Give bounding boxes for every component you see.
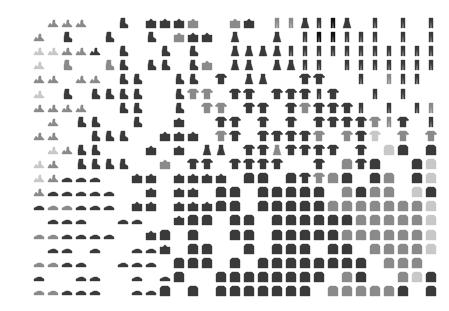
bag-icon [187, 186, 199, 198]
dress-icon [229, 59, 241, 71]
dress-icon [215, 144, 227, 156]
ankle-boot-icon [117, 59, 129, 71]
dress-icon [271, 59, 283, 71]
t-shirt-top-icon [313, 73, 325, 85]
dress-icon [299, 17, 311, 29]
ankle-boot-icon [159, 45, 171, 57]
ankle-boot-icon [159, 59, 171, 71]
sandal-icon [47, 45, 59, 57]
trouser-icon [383, 45, 395, 57]
thumbnail-grid [0, 0, 449, 311]
coat-icon [187, 257, 199, 269]
dress-icon [201, 144, 213, 156]
dress-icon [341, 17, 353, 29]
t-shirt-top-icon [313, 158, 325, 170]
t-shirt-top-icon [187, 88, 199, 100]
coat-icon [187, 229, 199, 241]
bag-icon [145, 144, 157, 156]
ankle-boot-icon [131, 73, 143, 85]
trouser-icon [299, 59, 311, 71]
coat-icon [229, 229, 241, 241]
t-shirt-top-icon [257, 144, 269, 156]
t-shirt-top-icon [313, 172, 325, 184]
trouser-icon [425, 45, 437, 57]
t-shirt-top-icon [299, 172, 311, 184]
sneaker-icon [61, 229, 73, 241]
pullover-icon [257, 186, 269, 198]
sneaker-icon [61, 172, 73, 184]
pullover-icon [341, 200, 353, 212]
shirt-icon [411, 243, 423, 255]
sandal-icon [75, 17, 87, 29]
shirt-icon [397, 200, 409, 212]
sneaker-icon [159, 271, 171, 283]
trouser-icon [341, 31, 353, 43]
sneaker-icon [103, 229, 115, 241]
coat-icon [243, 229, 255, 241]
bag-icon [159, 243, 171, 255]
coat-icon [271, 285, 283, 297]
pullover-icon [369, 229, 381, 241]
sandal-icon [61, 45, 73, 57]
sneaker-icon [103, 200, 115, 212]
coat-icon [229, 271, 241, 283]
t-shirt-top-icon [257, 158, 269, 170]
coat-icon [243, 285, 255, 297]
pullover-icon [327, 200, 339, 212]
trouser-icon [369, 88, 381, 100]
coat-icon [243, 214, 255, 226]
sneaker-icon [131, 271, 143, 283]
trouser-icon [383, 59, 395, 71]
trouser-icon [355, 102, 367, 114]
sandal-icon [33, 59, 45, 71]
t-shirt-top-icon [201, 102, 213, 114]
ankle-boot-icon [75, 158, 87, 170]
bag-icon [145, 229, 157, 241]
trouser-icon [355, 73, 367, 85]
pullover-icon [313, 229, 325, 241]
dress-icon [243, 73, 255, 85]
pullover-icon [313, 186, 325, 198]
dress-icon [243, 45, 255, 57]
dress-icon [257, 45, 269, 57]
coat-icon [271, 200, 283, 212]
shirt-icon [383, 257, 395, 269]
shirt-icon [383, 172, 395, 184]
sandal-icon [33, 102, 45, 114]
trouser-icon [425, 17, 437, 29]
coat-icon [173, 257, 185, 269]
ankle-boot-icon [75, 116, 87, 128]
sneaker-icon [145, 285, 157, 297]
bag-icon [243, 17, 255, 29]
sneaker-icon [47, 285, 59, 297]
bag-icon [173, 31, 185, 43]
bag-icon [131, 200, 143, 212]
coat-icon [201, 243, 213, 255]
coat-icon [159, 229, 171, 241]
ankle-boot-icon [187, 73, 199, 85]
pullover-icon [257, 172, 269, 184]
t-shirt-top-icon [187, 158, 199, 170]
sneaker-icon [75, 186, 87, 198]
dress-icon [243, 59, 255, 71]
pullover-icon [215, 186, 227, 198]
coat-icon [285, 271, 297, 283]
coat-icon [285, 285, 297, 297]
dress-icon [271, 144, 283, 156]
bag-icon [173, 130, 185, 142]
coat-icon [173, 271, 185, 283]
sandal-icon [33, 31, 45, 43]
shirt-icon [397, 144, 409, 156]
t-shirt-top-icon [327, 116, 339, 128]
trouser-icon [313, 31, 325, 43]
ankle-boot-icon [131, 102, 143, 114]
bag-icon [173, 214, 185, 226]
bag-icon [187, 31, 199, 43]
trouser-icon [327, 17, 339, 29]
sneaker-icon [33, 271, 45, 283]
sneaker-icon [61, 285, 73, 297]
ankle-boot-icon [145, 31, 157, 43]
bag-icon [173, 186, 185, 198]
pullover-icon [299, 200, 311, 212]
shirt-icon [383, 229, 395, 241]
